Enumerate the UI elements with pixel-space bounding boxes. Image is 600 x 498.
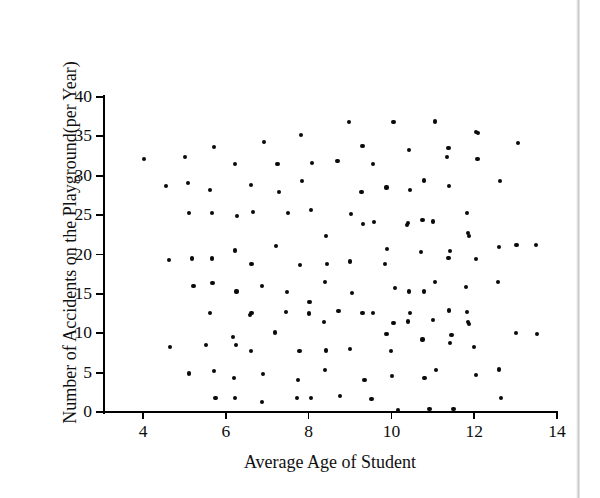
data-point bbox=[465, 310, 469, 314]
data-point bbox=[420, 218, 424, 222]
data-point bbox=[535, 332, 539, 336]
data-point bbox=[191, 284, 195, 288]
data-point bbox=[300, 179, 304, 183]
data-point bbox=[360, 144, 364, 148]
data-point bbox=[499, 396, 503, 400]
data-point bbox=[408, 311, 412, 315]
data-point bbox=[307, 300, 311, 304]
data-point bbox=[307, 311, 311, 315]
data-point bbox=[465, 211, 469, 215]
data-point bbox=[260, 400, 264, 404]
data-point bbox=[464, 285, 468, 289]
data-point bbox=[232, 376, 236, 380]
data-point bbox=[422, 376, 426, 380]
x-tick-12 bbox=[473, 412, 475, 419]
scatter-plot-figure: 0510152025303540 468101214 Average Age o… bbox=[0, 0, 600, 498]
data-point bbox=[234, 289, 238, 293]
data-point bbox=[431, 318, 435, 322]
data-point bbox=[427, 407, 431, 411]
data-point bbox=[234, 343, 238, 347]
data-point bbox=[497, 245, 501, 249]
x-tick-label-10: 10 bbox=[374, 423, 408, 441]
data-point bbox=[362, 378, 366, 382]
y-tick-15 bbox=[96, 293, 103, 295]
x-tick-14 bbox=[556, 412, 558, 419]
data-point bbox=[408, 188, 412, 192]
data-point bbox=[261, 372, 265, 376]
data-point bbox=[534, 243, 538, 247]
data-point bbox=[447, 308, 451, 312]
data-point bbox=[335, 159, 339, 163]
data-point bbox=[299, 133, 303, 137]
data-point bbox=[434, 368, 438, 372]
data-point bbox=[431, 219, 435, 223]
data-point bbox=[142, 157, 146, 161]
data-point bbox=[350, 291, 354, 295]
data-point bbox=[372, 220, 376, 224]
data-point bbox=[210, 256, 214, 260]
data-point bbox=[514, 331, 518, 335]
data-point bbox=[390, 374, 394, 378]
y-tick-20 bbox=[96, 254, 103, 256]
data-point bbox=[474, 373, 478, 377]
data-point bbox=[359, 190, 363, 194]
data-point bbox=[213, 396, 217, 400]
data-point bbox=[447, 184, 451, 188]
data-point bbox=[233, 248, 237, 252]
data-point bbox=[310, 161, 314, 165]
data-point bbox=[233, 396, 237, 400]
x-tick-label-4: 4 bbox=[126, 423, 160, 441]
data-point bbox=[407, 289, 411, 293]
data-point bbox=[187, 371, 191, 375]
data-point bbox=[420, 337, 424, 341]
x-tick-label-14: 14 bbox=[540, 423, 574, 441]
data-point bbox=[233, 162, 237, 166]
data-point bbox=[516, 141, 520, 145]
data-point bbox=[446, 256, 450, 260]
data-point bbox=[231, 335, 235, 339]
data-point bbox=[393, 286, 397, 290]
data-point bbox=[249, 183, 253, 187]
y-axis-title: Number of Accidents on the Playground(pe… bbox=[60, 33, 81, 453]
data-point bbox=[251, 210, 255, 214]
data-point bbox=[448, 341, 452, 345]
data-point bbox=[419, 250, 423, 254]
data-point bbox=[496, 280, 500, 284]
data-point bbox=[498, 179, 502, 183]
data-point bbox=[451, 407, 455, 411]
data-point bbox=[296, 378, 300, 382]
data-point bbox=[446, 146, 450, 150]
data-point bbox=[371, 162, 375, 166]
data-point bbox=[407, 148, 411, 152]
data-point bbox=[422, 289, 426, 293]
data-point bbox=[360, 311, 364, 315]
x-tick-label-6: 6 bbox=[209, 423, 243, 441]
x-axis-line bbox=[102, 411, 558, 413]
data-point bbox=[448, 249, 452, 253]
y-tick-0 bbox=[96, 411, 103, 413]
x-tick-4 bbox=[142, 412, 144, 419]
data-point bbox=[396, 408, 400, 412]
y-tick-30 bbox=[96, 175, 103, 177]
data-point bbox=[391, 120, 395, 124]
scanned-page-edge bbox=[576, 0, 580, 498]
data-point bbox=[476, 131, 480, 135]
data-point bbox=[187, 211, 191, 215]
y-axis-line bbox=[103, 95, 105, 414]
y-tick-5 bbox=[96, 372, 103, 374]
data-point bbox=[323, 368, 327, 372]
data-point bbox=[514, 243, 518, 247]
page-margin bbox=[588, 0, 600, 498]
data-point bbox=[309, 396, 313, 400]
data-point bbox=[309, 208, 313, 212]
data-point bbox=[190, 256, 194, 260]
data-point bbox=[212, 369, 216, 373]
plot-area: 0510152025303540 468101214 Average Age o… bbox=[0, 0, 600, 498]
data-point bbox=[274, 244, 278, 248]
x-tick-10 bbox=[391, 412, 393, 419]
data-point bbox=[433, 119, 437, 123]
data-point bbox=[384, 332, 388, 336]
data-point bbox=[208, 311, 212, 315]
data-point bbox=[325, 262, 329, 266]
data-point bbox=[260, 284, 264, 288]
